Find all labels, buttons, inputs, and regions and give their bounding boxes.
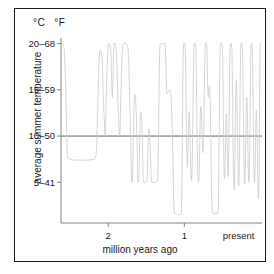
- y-tick-label: 20–68: [29, 38, 55, 49]
- temperature-curve: [63, 44, 261, 215]
- y-tick-label: 10–50: [29, 130, 55, 141]
- x-tick-label: present: [223, 230, 255, 241]
- temperature-chart: 20–6815–5910–505–41 21present: [15, 9, 267, 263]
- figure-frame: °C°F average summer temperature million …: [14, 8, 266, 262]
- x-tick-label: 2: [106, 230, 111, 241]
- y-tick-label-group: 20–6815–5910–505–41: [29, 38, 55, 188]
- x-tick-label-group: 21present: [106, 230, 255, 241]
- x-tick-label: 1: [182, 230, 187, 241]
- y-tick-label: 15–59: [29, 84, 55, 95]
- y-tick-label: 5–41: [34, 177, 55, 188]
